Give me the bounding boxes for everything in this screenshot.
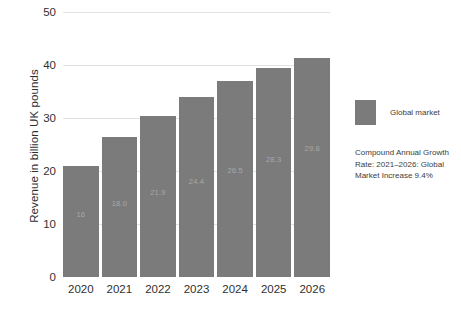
- bar-2022[interactable]: 21.9: [140, 116, 176, 277]
- chart-legend: Global market: [355, 100, 440, 125]
- x-tick-label-2021: 2021: [102, 283, 138, 295]
- y-tick-label-20: 20: [26, 165, 56, 177]
- x-tick-label-2025: 2025: [256, 283, 292, 295]
- x-tick-label-2024: 2024: [217, 283, 253, 295]
- bar-cell-2023: 24.4: [179, 12, 215, 277]
- bar-2025[interactable]: 28.3: [256, 68, 292, 277]
- bar-value-label-2022: 21.9: [140, 188, 176, 197]
- bar-cell-2025: 28.3: [256, 12, 292, 277]
- cagr-annotation: Compound Annual Growth Rate: 2021–2026: …: [355, 147, 451, 182]
- bar-cell-2021: 18.0: [102, 12, 138, 277]
- y-tick-label-50: 50: [26, 6, 56, 18]
- x-axis-tick-labels: 2020202120222023202420252026: [63, 283, 330, 295]
- y-tick-label-40: 40: [26, 59, 56, 71]
- bar-2024[interactable]: 26.5: [217, 81, 253, 277]
- bar-2020[interactable]: 16: [63, 166, 99, 277]
- bar-cell-2026: 29.8: [294, 12, 330, 277]
- y-tick-label-10: 10: [26, 218, 56, 230]
- y-tick-label-30: 30: [26, 112, 56, 124]
- legend-swatch-global-market: [355, 100, 376, 125]
- bar-value-label-2023: 24.4: [179, 177, 215, 186]
- x-tick-label-2023: 2023: [179, 283, 215, 295]
- bar-2021[interactable]: 18.0: [102, 137, 138, 277]
- bar-value-label-2020: 16: [63, 210, 99, 219]
- bar-value-label-2025: 28.3: [256, 155, 292, 164]
- bar-2023[interactable]: 24.4: [179, 97, 215, 277]
- y-tick-label-0: 0: [26, 271, 56, 283]
- bar-chart: Revenue in billion UK pounds 01020304050…: [0, 0, 461, 312]
- bar-cell-2020: 16: [63, 12, 99, 277]
- bar-value-label-2021: 18.0: [102, 199, 138, 208]
- x-tick-label-2022: 2022: [140, 283, 176, 295]
- bar-cell-2022: 21.9: [140, 12, 176, 277]
- bar-2026[interactable]: 29.8: [294, 58, 330, 277]
- bar-cell-2024: 26.5: [217, 12, 253, 277]
- gridline-0: [63, 277, 330, 278]
- bar-value-label-2026: 29.8: [294, 144, 330, 153]
- legend-label-global-market: Global market: [390, 108, 440, 117]
- x-tick-label-2026: 2026: [294, 283, 330, 295]
- bar-value-label-2024: 26.5: [217, 166, 253, 175]
- x-tick-label-2020: 2020: [63, 283, 99, 295]
- bar-series-global-market: 1618.021.924.426.528.329.8: [63, 12, 330, 277]
